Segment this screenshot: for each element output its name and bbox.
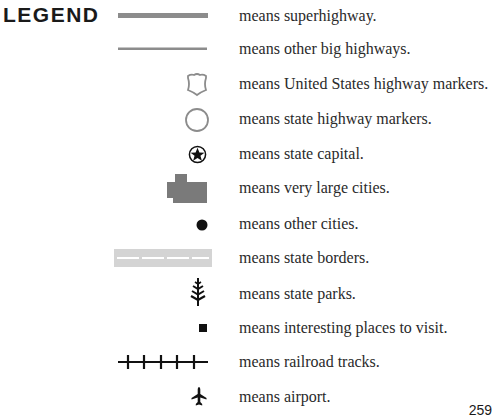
dashed-border-icon <box>114 249 212 267</box>
legend-item-railroad: means railroad tracks. <box>0 342 498 382</box>
large-city-block-icon <box>167 174 209 204</box>
legend-item-us-highway-markers: means United States highway markers. <box>0 64 498 104</box>
legend-label: means interesting places to visit. <box>239 319 447 337</box>
legend-label: means state highway markers. <box>239 110 432 128</box>
tree-icon <box>190 278 206 306</box>
legend-item-state-highway-markers: means state highway markers. <box>0 99 498 139</box>
legend-label: means state borders. <box>239 249 369 267</box>
page-number: 259 <box>469 402 492 418</box>
us-highway-shield-icon <box>184 72 210 98</box>
legend-label: means superhighway. <box>239 7 377 25</box>
superhighway-line-icon <box>118 12 210 20</box>
star-in-circle-icon <box>188 145 207 164</box>
legend-item-highways: means other big highways. <box>0 29 498 69</box>
legend-label: means other big highways. <box>239 40 411 58</box>
legend-label: means other cities. <box>239 215 359 233</box>
square-icon <box>199 324 207 332</box>
legend-label: means state parks. <box>239 285 356 303</box>
legend-item-airport: means airport. <box>0 377 498 417</box>
legend-label: means railroad tracks. <box>239 353 380 371</box>
legend-label: means United States highway markers. <box>239 75 488 93</box>
highway-line-icon <box>118 47 210 51</box>
legend-label: means airport. <box>239 388 331 406</box>
legend-item-large-cities: means very large cities. <box>0 168 498 208</box>
legend-label: means very large cities. <box>239 179 390 197</box>
state-highway-circle-icon <box>184 107 210 133</box>
railroad-track-icon <box>118 353 210 371</box>
airplane-icon <box>191 387 207 407</box>
legend-label: means state capital. <box>239 145 364 163</box>
dot-icon <box>196 219 208 231</box>
legend-item-state-borders: means state borders. <box>0 238 498 278</box>
